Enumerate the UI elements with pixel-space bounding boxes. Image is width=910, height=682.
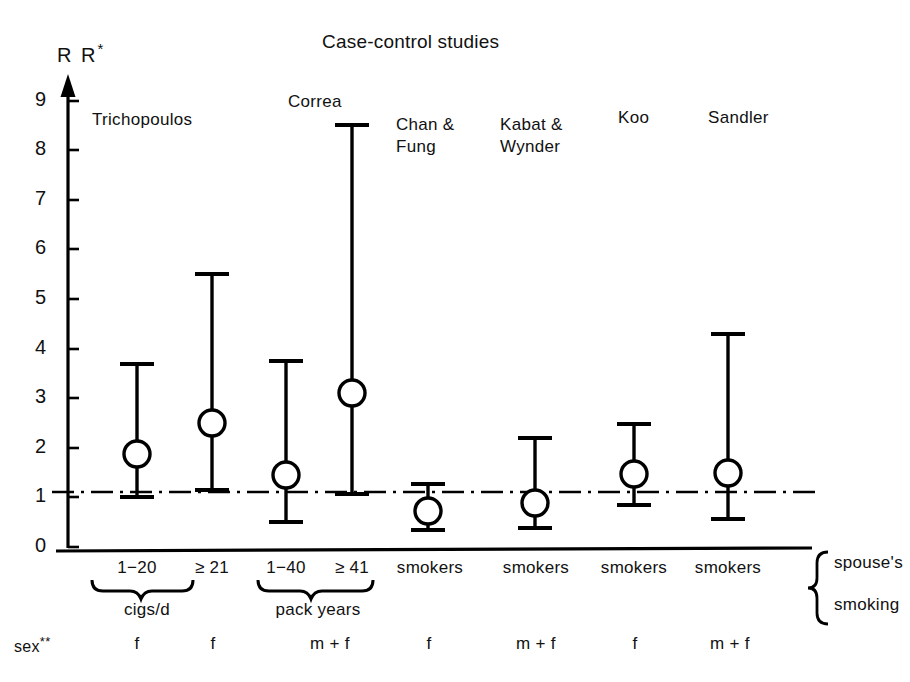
study-label-chan-fung-line1: Chan & xyxy=(396,115,455,134)
data-point-2[interactable] xyxy=(195,274,229,490)
y-tick-label-4: 4 xyxy=(24,336,46,358)
figure-container: Case-control studies R R* 9 8 7 6 5 4 3 … xyxy=(0,0,910,682)
study-label-correa: Correa xyxy=(288,92,342,111)
study-label-kabat-wynder-line1: Kabat & xyxy=(500,115,563,134)
y-tick-label-0: 0 xyxy=(24,534,46,556)
y-tick-label-3: 3 xyxy=(24,385,46,407)
sex-value-1: f xyxy=(100,634,174,653)
study-label-sandler: Sandler xyxy=(708,108,769,127)
data-point-6[interactable] xyxy=(518,438,552,528)
category-label-4: ≥ 41 xyxy=(312,558,392,577)
study-label-kabat-wynder-line2: Wynder xyxy=(500,137,560,156)
data-point-3[interactable] xyxy=(269,361,303,522)
category-label-5: smokers xyxy=(388,558,472,577)
category-label-2: ≥ 21 xyxy=(172,558,252,577)
group-label-pack-years: pack years xyxy=(260,600,376,619)
y-axis-title: R R* xyxy=(57,41,103,66)
sex-value-5: m + f xyxy=(488,634,584,653)
brace-label-spouse-line2: smoking xyxy=(834,594,899,615)
y-tick-label-7: 7 xyxy=(24,187,46,209)
y-tick-label-8: 8 xyxy=(24,137,46,159)
y-tick-label-5: 5 xyxy=(24,286,46,308)
study-label-trichopoulos: Trichopoulos xyxy=(92,110,192,129)
sex-value-2: f xyxy=(176,634,250,653)
y-tick-label-6: 6 xyxy=(24,236,46,258)
x-axis-baseline xyxy=(56,548,812,551)
data-point-1[interactable] xyxy=(120,364,154,497)
sex-row-title-text: sex xyxy=(14,638,40,655)
sex-value-7: m + f xyxy=(682,634,778,653)
sex-value-3: m + f xyxy=(282,634,378,653)
brace-label-spouse-line1: spouse's xyxy=(834,552,903,573)
chart-plot-area xyxy=(0,0,910,682)
category-label-6: smokers xyxy=(494,558,578,577)
brace-cigs-per-day xyxy=(92,580,193,599)
data-point-4[interactable] xyxy=(335,125,369,494)
chart-title: Case-control studies xyxy=(322,31,499,52)
study-label-chan-fung-line2: Fung xyxy=(396,137,436,156)
y-axis-title-footnote-marker: * xyxy=(97,40,103,57)
sex-value-6: f xyxy=(598,634,672,653)
brace-spouse-smoking xyxy=(808,552,828,624)
y-tick-label-9: 9 xyxy=(24,88,46,110)
brace-pack-years xyxy=(258,580,373,599)
category-label-7: smokers xyxy=(592,558,676,577)
y-tick-label-2: 2 xyxy=(24,435,46,457)
sex-row-title: sex** xyxy=(14,635,51,656)
y-axis xyxy=(61,74,76,548)
sex-value-4: f xyxy=(392,634,466,653)
category-label-8: smokers xyxy=(686,558,770,577)
y-axis-ticks xyxy=(68,101,79,547)
sex-row-footnote-marker: ** xyxy=(40,634,51,649)
y-tick-label-1: 1 xyxy=(24,484,46,506)
category-label-1: 1−20 xyxy=(97,558,177,577)
group-label-cigs-per-day: cigs/d xyxy=(102,600,192,619)
y-axis-title-text: R R xyxy=(57,44,97,66)
study-label-koo: Koo xyxy=(618,108,649,127)
